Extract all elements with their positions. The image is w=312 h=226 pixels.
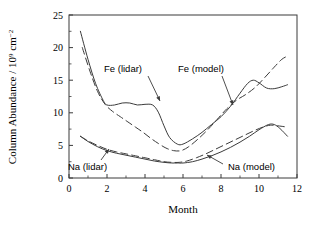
y-tick-label: 20 bbox=[53, 42, 63, 53]
x-tick-label: 4 bbox=[143, 183, 148, 194]
x-tick-label: 8 bbox=[219, 183, 224, 194]
series-line-fe-lidar bbox=[80, 31, 287, 145]
x-tick-label: 10 bbox=[254, 183, 264, 194]
y-tick-label: 15 bbox=[53, 75, 63, 86]
x-tick-label: 6 bbox=[181, 183, 186, 194]
y-axis-title-unit-exponent: −2 bbox=[7, 29, 15, 37]
y-axis-ticks: 0510152025 bbox=[53, 10, 73, 184]
x-axis-title: Month bbox=[168, 203, 198, 215]
x-axis-ticks: 024681012 bbox=[67, 174, 303, 194]
y-tick-label: 0 bbox=[58, 173, 63, 184]
annotation-leader-lines bbox=[101, 76, 233, 164]
y-axis-title: Column Abundance / 109 cm−2 bbox=[6, 29, 18, 164]
y-tick-label: 10 bbox=[53, 107, 63, 118]
line-chart: 024681012 0510152025 Month Column Abunda… bbox=[0, 0, 312, 226]
x-tick-label: 0 bbox=[67, 183, 72, 194]
label-fe-lidar: Fe (lidar) bbox=[104, 63, 142, 74]
y-axis-title-main: Column Abundance / 10 bbox=[6, 56, 18, 164]
y-tick-label: 25 bbox=[53, 10, 63, 21]
y-axis-title-unit: cm bbox=[6, 37, 18, 54]
label-na-lidar: Na (lidar) bbox=[68, 161, 107, 172]
y-tick-label: 5 bbox=[58, 140, 63, 151]
x-tick-label: 12 bbox=[292, 183, 302, 194]
plot-frame bbox=[69, 15, 297, 178]
leader-line-fe-model bbox=[222, 76, 233, 105]
data-series-group bbox=[80, 31, 287, 163]
label-fe-model: Fe (model) bbox=[178, 63, 224, 74]
x-tick-label: 2 bbox=[105, 183, 110, 194]
figure-container: 024681012 0510152025 Month Column Abunda… bbox=[0, 0, 312, 226]
label-na-model: Na (model) bbox=[228, 161, 275, 172]
